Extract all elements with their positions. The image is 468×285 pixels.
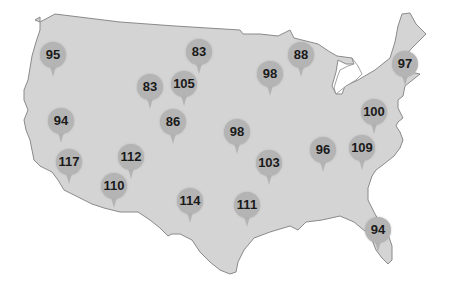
temperature-value: 97 (382, 56, 428, 72)
temperature-value: 105 (161, 76, 207, 92)
temperature-pin[interactable]: 94 (365, 217, 391, 253)
temperature-pin[interactable]: 98 (224, 119, 250, 155)
temperature-value: 83 (176, 44, 222, 60)
temperature-value: 111 (224, 197, 270, 213)
us-map: 95 83 88 98 97 83 105 94 86 (0, 0, 468, 285)
temperature-value: 117 (46, 154, 92, 170)
temperature-pin[interactable]: 114 (177, 188, 203, 224)
temperature-value: 95 (30, 47, 76, 63)
temperature-pin[interactable]: 103 (256, 150, 282, 186)
temperature-value: 98 (247, 66, 293, 82)
temperature-pin[interactable]: 83 (186, 39, 212, 75)
temperature-pin[interactable]: 95 (40, 42, 66, 78)
temperature-pin[interactable]: 105 (171, 71, 197, 107)
temperature-value: 110 (91, 178, 137, 194)
temperature-value: 98 (214, 124, 260, 140)
temperature-value: 94 (38, 113, 84, 129)
temperature-pin[interactable]: 100 (361, 99, 387, 135)
temperature-value: 112 (108, 149, 154, 165)
temperature-value: 100 (351, 104, 397, 120)
temperature-pin[interactable]: 86 (160, 109, 186, 145)
temperature-pin[interactable]: 96 (310, 137, 336, 173)
temperature-value: 103 (246, 155, 292, 171)
temperature-value: 94 (355, 222, 401, 238)
temperature-pin[interactable]: 109 (349, 135, 375, 171)
temperature-pin[interactable]: 83 (137, 74, 163, 110)
temperature-pin[interactable]: 111 (234, 192, 260, 228)
temperature-pin[interactable]: 98 (257, 61, 283, 97)
temperature-value: 109 (339, 140, 385, 156)
temperature-value: 88 (278, 47, 324, 63)
temperature-pin[interactable]: 94 (48, 108, 74, 144)
temperature-value: 114 (167, 193, 213, 209)
temperature-pin[interactable]: 97 (392, 51, 418, 87)
temperature-pin[interactable]: 117 (56, 149, 82, 185)
temperature-pin[interactable]: 110 (101, 173, 127, 209)
temperature-value: 86 (150, 114, 196, 130)
